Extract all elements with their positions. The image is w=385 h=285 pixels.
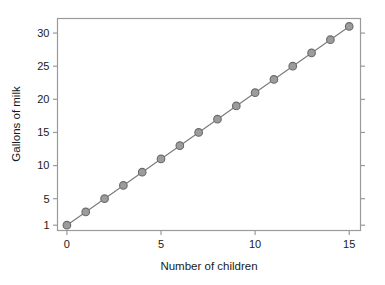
y-tick-label: 15 bbox=[37, 126, 49, 138]
chart-container: 151015202530 051015 Number of children G… bbox=[0, 0, 385, 285]
data-point bbox=[82, 208, 90, 216]
y-tick-label: 5 bbox=[43, 193, 49, 205]
x-tick-label: 5 bbox=[158, 238, 164, 250]
x-tick-label: 0 bbox=[64, 238, 70, 250]
y-tick-label: 25 bbox=[37, 60, 49, 72]
x-axis-title: Number of children bbox=[160, 260, 257, 272]
data-point bbox=[327, 36, 335, 44]
y-tick-label: 30 bbox=[37, 27, 49, 39]
data-point bbox=[195, 129, 203, 137]
line-chart: 151015202530 051015 Number of children G… bbox=[0, 0, 385, 285]
data-point bbox=[101, 195, 109, 203]
data-point bbox=[157, 155, 165, 163]
data-point bbox=[120, 182, 128, 190]
data-point bbox=[138, 168, 146, 176]
data-point bbox=[176, 142, 184, 150]
data-point bbox=[345, 23, 353, 31]
x-tick-label: 15 bbox=[343, 238, 355, 250]
data-point bbox=[289, 62, 297, 70]
y-axis-title: Gallons of milk bbox=[10, 86, 22, 162]
x-tick-label: 10 bbox=[249, 238, 261, 250]
y-tick-label: 10 bbox=[37, 159, 49, 171]
data-point bbox=[270, 76, 278, 84]
data-point bbox=[214, 115, 222, 123]
data-point bbox=[63, 221, 71, 229]
data-point bbox=[232, 102, 240, 110]
y-tick-label: 20 bbox=[37, 93, 49, 105]
data-point bbox=[251, 89, 259, 97]
data-point bbox=[308, 49, 316, 57]
y-tick-label: 1 bbox=[43, 219, 49, 231]
